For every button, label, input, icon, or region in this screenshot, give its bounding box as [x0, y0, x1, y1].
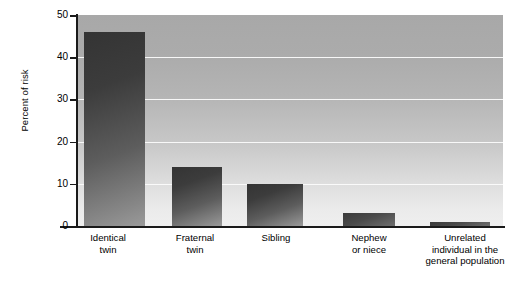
x-label-line: Fraternal — [156, 232, 234, 244]
y-axis-title: Percent of risk — [19, 31, 30, 171]
y-tick-mark-50 — [70, 15, 77, 17]
x-label-line: Identical — [69, 232, 147, 244]
y-tick-mark-10 — [70, 184, 77, 186]
x-label-line: Unrelated — [413, 232, 517, 244]
x-label-line: Sibling — [237, 232, 315, 244]
bar-fill — [247, 184, 303, 226]
bar-fraternal-twin[interactable] — [172, 167, 222, 226]
x-label-line: twin — [69, 244, 147, 256]
y-tick-mark-20 — [70, 142, 77, 144]
x-label-fraternal-twin: Fraternal twin — [156, 232, 234, 255]
y-tick-mark-30 — [70, 99, 77, 101]
y-tick-label-40: 40 — [46, 52, 68, 62]
y-tick-label-0: 0 — [46, 221, 68, 231]
plot-area — [77, 15, 503, 226]
bar-nephew-or-niece[interactable] — [343, 213, 395, 226]
bar-identical-twin[interactable] — [84, 32, 145, 226]
x-label-identical-twin: Identical twin — [69, 232, 147, 255]
x-axis-line — [60, 226, 505, 228]
y-axis-line — [76, 14, 78, 227]
y-tick-label-30: 30 — [46, 94, 68, 104]
x-label-nephew-or-niece: Nephew or niece — [330, 232, 408, 255]
y-tick-mark-40 — [70, 57, 77, 59]
bar-fill — [84, 32, 145, 226]
y-tick-label-20: 20 — [46, 137, 68, 147]
y-tick-mark-0 — [70, 226, 77, 228]
x-label-sibling: Sibling — [237, 232, 315, 244]
x-label-line: individual in the — [413, 244, 517, 256]
x-label-unrelated-individual: Unrelated individual in the general popu… — [413, 232, 517, 267]
x-label-line: twin — [156, 244, 234, 256]
x-label-line: general population — [413, 255, 517, 267]
y-tick-label-50: 50 — [46, 10, 68, 20]
bar-chart: Percent of risk 0 10 — [0, 0, 523, 281]
bar-fill — [172, 167, 222, 226]
bar-sibling[interactable] — [247, 184, 303, 226]
bar-fill — [343, 213, 395, 226]
x-label-line: or niece — [330, 244, 408, 256]
x-label-line: Nephew — [330, 232, 408, 244]
y-tick-label-10: 10 — [46, 179, 68, 189]
